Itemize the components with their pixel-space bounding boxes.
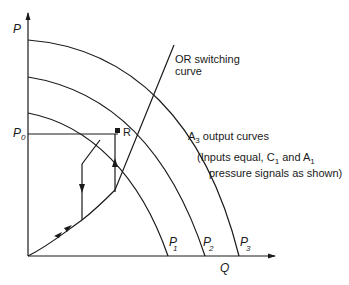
- inputs-note-line2: pressure signals as shown): [209, 167, 342, 179]
- inputs-note-line1: (Inputs equal, C1 and A1: [197, 151, 315, 166]
- cycle-diagonal: [82, 140, 100, 164]
- up-arrow-icon: [112, 158, 118, 167]
- curve-label-p2: P2: [203, 235, 214, 253]
- output-curve-p3: [28, 40, 239, 256]
- point-r-marker: [115, 128, 120, 133]
- switching-curve: [28, 45, 174, 256]
- down-arrow-icon: [79, 184, 85, 193]
- x-axis-label: Q: [220, 261, 229, 275]
- output-curves-label: A3 output curves: [188, 130, 269, 145]
- curve-label-p3: P3: [240, 235, 251, 253]
- switching-curve-label-line2: curve: [175, 65, 202, 77]
- diagram-canvas: R P Q P0 P1 P2 P3 OR switching curve A3 …: [0, 0, 349, 285]
- y-axis-label: P: [13, 22, 21, 36]
- point-r-label: R: [123, 126, 131, 138]
- curve-label-p1: P1: [169, 235, 177, 253]
- switching-curve-label-line1: OR switching: [175, 53, 240, 65]
- p0-label: P0: [13, 126, 26, 142]
